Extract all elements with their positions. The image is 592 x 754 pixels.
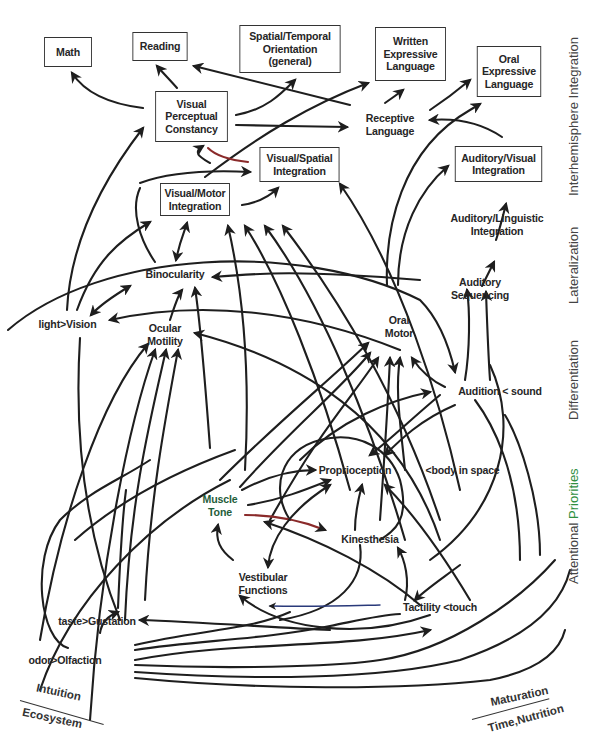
node-line: Visual/Spatial xyxy=(266,152,332,165)
side-label-attentional-priorities: Attentional Priorities xyxy=(566,468,581,584)
node-body-in-space: <body in space xyxy=(423,464,501,477)
node-spatial-temporal-orientation: Spatial/Temporal Orientation (general) xyxy=(239,25,340,73)
node-kinesthesia: Kinesthesia xyxy=(338,533,402,546)
node-line: Perceptual xyxy=(165,110,217,123)
node-line: Binocularity xyxy=(138,268,212,281)
node-line: Sequencing xyxy=(443,289,517,302)
node-line: Auditory xyxy=(443,276,517,289)
node-line: Language xyxy=(386,60,435,73)
node-line: Language xyxy=(485,78,534,91)
node-oral-expressive-language: Oral Expressive Language xyxy=(477,46,541,97)
node-vestibular-functions: Vestibular Functions xyxy=(234,571,291,596)
node-line: Expressive xyxy=(482,65,536,78)
node-reading-label: Reading xyxy=(140,40,180,53)
node-line: light>Vision xyxy=(33,318,102,331)
node-line: Audition < sound xyxy=(454,385,546,398)
side-label-text: Lateralization xyxy=(566,227,581,304)
side-label-text: Interhemisphere Integration xyxy=(566,37,581,196)
node-receptive-language: Receptive Language xyxy=(353,112,427,137)
node-line: Integration xyxy=(442,225,552,238)
side-label-lateralization: Lateralization xyxy=(566,227,581,304)
node-line: Motor xyxy=(380,327,419,340)
node-oral-motor: Oral Motor xyxy=(380,314,419,339)
node-audition: Audition < sound xyxy=(454,385,546,398)
node-line: taste>Gustation xyxy=(56,615,139,628)
node-tactility: Tactility <touch xyxy=(394,601,486,614)
node-visual-spatial-integration: Visual/Spatial Integration xyxy=(259,147,339,182)
node-line: Integration xyxy=(169,200,222,213)
node-written-expressive-language: Written Expressive Language xyxy=(375,27,446,81)
node-visual-perceptual-constancy: Visual Perceptual Constancy xyxy=(155,91,228,142)
node-line: Proprioception xyxy=(318,464,392,477)
side-label-interhemisphere-integration: Interhemisphere Integration xyxy=(566,37,581,196)
node-reading: Reading xyxy=(132,32,187,61)
node-line: Visual/Motor xyxy=(164,187,225,200)
node-auditory-visual-integration: Auditory/Visual Integration xyxy=(455,146,542,182)
node-auditory-sequencing: Auditory Sequencing xyxy=(443,276,517,301)
node-visual-motor-integration: Visual/Motor Integration xyxy=(160,183,230,216)
node-line: Auditory/Linguistic xyxy=(442,212,552,225)
node-gustation: taste>Gustation xyxy=(56,615,139,628)
node-line: Oral xyxy=(380,314,419,327)
node-line: (general) xyxy=(268,55,311,68)
node-line: Muscle xyxy=(197,493,243,506)
side-label-text-accent: Priorities xyxy=(566,468,581,519)
node-line: Visual xyxy=(177,98,207,111)
node-line: Written xyxy=(393,35,428,48)
node-line: Receptive xyxy=(353,112,427,125)
node-ocular-motility: Ocular Motility xyxy=(142,322,188,347)
node-line: Vestibular xyxy=(234,571,291,584)
side-label-differentiation: Differentiation xyxy=(566,340,581,420)
node-line: Functions xyxy=(234,584,291,597)
node-line: Orientation xyxy=(263,43,317,56)
node-line: Ocular xyxy=(142,322,188,335)
node-line: Oral xyxy=(499,53,519,66)
side-label-text: Differentiation xyxy=(566,340,581,420)
node-line: Tone xyxy=(197,506,243,519)
node-muscle-tone: Muscle Tone xyxy=(197,493,243,518)
node-vision: light>Vision xyxy=(33,318,102,331)
node-line: Motility xyxy=(142,335,188,348)
node-line: odor>Olfaction xyxy=(25,654,104,667)
node-olfaction: odor>Olfaction xyxy=(25,654,104,667)
node-line: Language xyxy=(353,125,427,138)
node-line: Tactility <touch xyxy=(394,601,486,614)
node-proprioception: Proprioception xyxy=(318,464,392,477)
side-label-text: Attentional xyxy=(566,519,581,584)
node-line: Expressive xyxy=(383,48,437,61)
node-auditory-linguistic-integration: Auditory/Linguistic Integration xyxy=(442,212,552,237)
node-math-label: Math xyxy=(56,46,80,59)
node-line: Integration xyxy=(273,165,326,178)
node-line: <body in space xyxy=(423,464,501,477)
node-line: Auditory/Visual xyxy=(461,152,536,165)
node-binocularity: Binocularity xyxy=(138,268,212,281)
node-line: Spatial/Temporal xyxy=(249,30,331,43)
node-line: Kinesthesia xyxy=(338,533,402,546)
node-line: Integration xyxy=(472,164,525,177)
node-line: Constancy xyxy=(165,123,217,136)
connection-arrows xyxy=(0,0,592,754)
node-math: Math xyxy=(44,37,92,67)
